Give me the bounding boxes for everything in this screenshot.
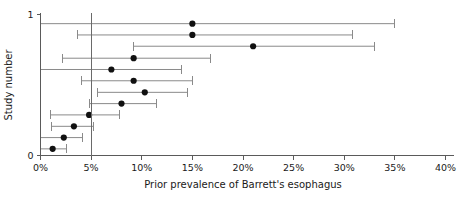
study-row xyxy=(78,30,352,39)
point-estimate-marker xyxy=(108,66,114,72)
point-estimate-marker xyxy=(131,55,137,61)
confidence-interval-layer xyxy=(41,19,395,153)
point-estimate-marker xyxy=(118,101,124,107)
study-row xyxy=(51,110,120,119)
point-estimate-marker xyxy=(142,89,148,95)
study-row xyxy=(41,19,395,28)
point-estimate-marker xyxy=(189,32,195,38)
x-axis-tick-label: 15% xyxy=(182,162,203,173)
x-axis-tick-label: 20% xyxy=(232,162,253,173)
point-estimate-marker xyxy=(250,43,256,49)
x-axis-tick-label: 30% xyxy=(334,162,355,173)
axis-labels-layer: 0%5%10%15%20%25%30%35%40%01Prior prevale… xyxy=(3,9,456,190)
x-axis-title: Prior prevalence of Barrett's esophagus xyxy=(144,179,342,190)
point-estimate-marker xyxy=(131,78,137,84)
point-estimate-marker xyxy=(189,21,195,27)
forest-plot-figure: 0%5%10%15%20%25%30%35%40%01Prior prevale… xyxy=(0,0,466,201)
point-estimate-marker xyxy=(61,134,67,140)
point-estimate-layer xyxy=(50,21,257,152)
x-axis-tick-label: 25% xyxy=(283,162,304,173)
x-axis-tick-label: 40% xyxy=(435,162,456,173)
x-axis-tick-label: 5% xyxy=(84,162,99,173)
y-axis-tick-label: 1 xyxy=(27,9,33,20)
x-axis-tick-label: 35% xyxy=(384,162,405,173)
y-axis-title: Study number xyxy=(3,49,14,121)
point-estimate-marker xyxy=(71,123,77,129)
forest-plot-svg: 0%5%10%15%20%25%30%35%40%01Prior prevale… xyxy=(0,0,466,201)
x-axis-tick-label: 0% xyxy=(33,162,48,173)
x-axis-tick-label: 10% xyxy=(131,162,152,173)
point-estimate-marker xyxy=(50,146,56,152)
y-axis-tick-label: 0 xyxy=(27,150,33,161)
